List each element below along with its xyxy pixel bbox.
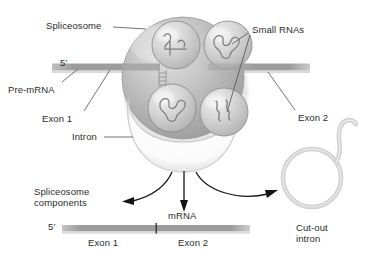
- snrnp-particle-bottom-left: [148, 84, 196, 132]
- label-five-prime-top: 5′: [60, 57, 67, 69]
- rna-splicing-figure: Spliceosome Small RNAs 5′ Pre-mRNA Exon …: [0, 0, 366, 262]
- label-spliceosome: Spliceosome: [46, 20, 102, 32]
- label-exon2-bottom: Exon 2: [178, 237, 208, 249]
- label-pre-mrna: Pre-mRNA: [8, 84, 55, 96]
- snrnp-particle-top-left: [152, 21, 200, 69]
- label-cutout-intron-line1: Cut-out: [296, 222, 328, 234]
- label-spliceosome-components-line2: components: [34, 197, 87, 209]
- snrnp-particle-bottom-right: [200, 88, 248, 136]
- label-exon2-top: Exon 2: [298, 112, 328, 124]
- label-exon1-bottom: Exon 1: [88, 237, 118, 249]
- label-exon1-top: Exon 1: [42, 113, 72, 125]
- label-intron: Intron: [72, 131, 97, 143]
- snrnp-particle-top-right: [204, 21, 252, 69]
- label-five-prime-bottom: 5′: [48, 221, 55, 233]
- label-cutout-intron-line2: intron: [296, 233, 320, 245]
- mature-mrna-bar: [62, 223, 250, 234]
- product-arrows: [122, 171, 278, 212]
- cutout-intron-lariat: [283, 120, 356, 207]
- label-spliceosome-components-line1: Spliceosome: [34, 186, 90, 198]
- label-small-rnas: Small RNAs: [252, 24, 304, 36]
- label-mrna: mRNA: [168, 210, 196, 222]
